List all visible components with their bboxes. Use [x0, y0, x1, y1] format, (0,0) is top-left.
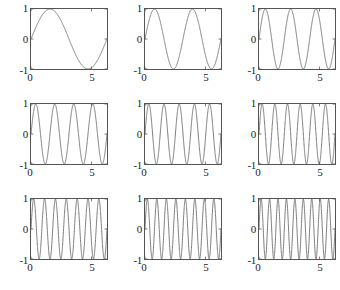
- sine-curve-canvas: [145, 104, 221, 164]
- sine-curve: [259, 199, 335, 259]
- sine-curve: [31, 104, 107, 164]
- sine-curve-canvas: [259, 199, 335, 259]
- x-axis-ticklabels: 05: [144, 261, 222, 277]
- x-ticklabel: 5: [203, 71, 209, 83]
- x-ticklabel: 5: [89, 261, 95, 273]
- y-ticklabel: 1: [116, 98, 142, 109]
- plot-axes-frame: [30, 103, 108, 165]
- x-ticklabel: 5: [317, 71, 323, 83]
- sine-curve-canvas: [145, 9, 221, 69]
- y-ticklabel: -1: [230, 160, 256, 171]
- plot-axes-frame: [258, 198, 336, 260]
- sine-curve: [259, 104, 335, 164]
- y-ticklabel: 1: [2, 3, 28, 14]
- y-axis-ticklabels: 10-1: [228, 198, 256, 260]
- x-axis-ticklabels: 05: [144, 166, 222, 182]
- y-ticklabel: 0: [116, 224, 142, 235]
- sine-curve: [145, 104, 221, 164]
- y-ticklabel: 1: [2, 193, 28, 204]
- y-ticklabel: -1: [2, 160, 28, 171]
- sine-curve: [145, 199, 221, 259]
- y-ticklabel: 1: [116, 3, 142, 14]
- subplot-7: 10-105: [0, 190, 110, 286]
- x-axis-ticklabels: 05: [258, 261, 336, 277]
- sine-curve: [31, 9, 107, 69]
- y-axis-ticklabels: 10-1: [228, 103, 256, 165]
- y-axis-ticklabels: 10-1: [114, 103, 142, 165]
- x-axis-ticklabels: 05: [30, 261, 108, 277]
- subplot-2: 10-105: [114, 0, 224, 96]
- x-ticklabel: 5: [89, 166, 95, 178]
- x-ticklabel: 5: [317, 166, 323, 178]
- y-axis-ticklabels: 10-1: [0, 8, 28, 70]
- x-ticklabel: 0: [141, 261, 147, 273]
- y-ticklabel: -1: [230, 65, 256, 76]
- plot-axes-frame: [30, 198, 108, 260]
- x-axis-ticklabels: 05: [258, 166, 336, 182]
- sine-curve-canvas: [31, 104, 107, 164]
- y-ticklabel: 0: [2, 34, 28, 45]
- sine-curve: [31, 199, 107, 259]
- subplot-4: 10-105: [0, 95, 110, 191]
- y-ticklabel: 1: [116, 193, 142, 204]
- y-ticklabel: -1: [2, 65, 28, 76]
- x-axis-ticklabels: 05: [30, 71, 108, 87]
- sine-curve-canvas: [145, 199, 221, 259]
- y-ticklabel: 1: [2, 98, 28, 109]
- subplot-1: 10-105: [0, 0, 110, 96]
- subplot-9: 10-105: [228, 190, 338, 286]
- subplot-8: 10-105: [114, 190, 224, 286]
- subplot-3: 10-105: [228, 0, 338, 96]
- y-ticklabel: 0: [116, 129, 142, 140]
- sine-curve-canvas: [259, 9, 335, 69]
- x-ticklabel: 0: [255, 166, 261, 178]
- sine-curve: [145, 9, 221, 69]
- sine-curve-canvas: [259, 104, 335, 164]
- y-ticklabel: -1: [2, 255, 28, 266]
- x-axis-ticklabels: 05: [258, 71, 336, 87]
- y-axis-ticklabels: 10-1: [0, 103, 28, 165]
- y-axis-ticklabels: 10-1: [0, 198, 28, 260]
- subplot-5: 10-105: [114, 95, 224, 191]
- y-axis-ticklabels: 10-1: [228, 8, 256, 70]
- y-ticklabel: 0: [116, 34, 142, 45]
- y-ticklabel: -1: [116, 255, 142, 266]
- y-ticklabel: 0: [2, 224, 28, 235]
- x-axis-ticklabels: 05: [144, 71, 222, 87]
- sine-curve-canvas: [31, 199, 107, 259]
- y-ticklabel: -1: [116, 65, 142, 76]
- y-ticklabel: 0: [2, 129, 28, 140]
- y-ticklabel: 1: [230, 193, 256, 204]
- x-ticklabel: 5: [203, 166, 209, 178]
- x-ticklabel: 5: [317, 261, 323, 273]
- plot-axes-frame: [30, 8, 108, 70]
- plot-axes-frame: [144, 198, 222, 260]
- x-ticklabel: 0: [255, 71, 261, 83]
- y-ticklabel: 1: [230, 3, 256, 14]
- x-ticklabel: 0: [27, 261, 33, 273]
- subplot-grid-figure: 10-10510-10510-10510-10510-10510-10510-1…: [0, 0, 340, 290]
- sine-curve: [259, 9, 335, 69]
- x-ticklabel: 5: [89, 71, 95, 83]
- y-ticklabel: -1: [116, 160, 142, 171]
- y-axis-ticklabels: 10-1: [114, 8, 142, 70]
- x-ticklabel: 0: [27, 71, 33, 83]
- sine-curve-canvas: [31, 9, 107, 69]
- plot-axes-frame: [258, 8, 336, 70]
- x-ticklabel: 0: [255, 261, 261, 273]
- y-ticklabel: 0: [230, 129, 256, 140]
- y-axis-ticklabels: 10-1: [114, 198, 142, 260]
- y-ticklabel: 0: [230, 34, 256, 45]
- x-axis-ticklabels: 05: [30, 166, 108, 182]
- y-ticklabel: 0: [230, 224, 256, 235]
- subplot-6: 10-105: [228, 95, 338, 191]
- plot-axes-frame: [144, 8, 222, 70]
- x-ticklabel: 5: [203, 261, 209, 273]
- x-ticklabel: 0: [141, 166, 147, 178]
- plot-axes-frame: [144, 103, 222, 165]
- x-ticklabel: 0: [141, 71, 147, 83]
- y-ticklabel: 1: [230, 98, 256, 109]
- plot-axes-frame: [258, 103, 336, 165]
- x-ticklabel: 0: [27, 166, 33, 178]
- y-ticklabel: -1: [230, 255, 256, 266]
